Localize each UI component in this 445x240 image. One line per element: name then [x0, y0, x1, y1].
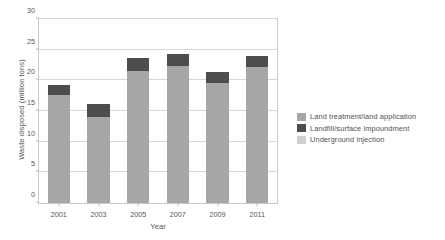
chart-figure: Waste disposed (million tons) 0510152025…: [0, 0, 445, 240]
gridline: [39, 18, 277, 19]
bar-segment: [167, 54, 189, 66]
y-axis-tick-mark: [36, 140, 39, 141]
x-axis-tick-label: 2005: [130, 210, 146, 219]
bar-segment: [246, 67, 268, 203]
gridline: [39, 141, 277, 142]
bar-segment: [246, 56, 268, 66]
x-axis-tick-mark: [217, 203, 218, 206]
x-axis-tick-label: 2011: [249, 210, 264, 219]
legend-swatch-icon: [297, 124, 306, 132]
x-axis-tick-label: 2007: [170, 210, 186, 219]
chart-legend: Land treatment/land applicationLandfill/…: [297, 112, 416, 144]
legend-item-label: Landfill/surface impoundment: [310, 124, 409, 133]
x-axis-tick-mark: [257, 203, 258, 206]
legend-item-label: Land treatment/land application: [310, 112, 416, 121]
y-axis-tick-label: 30: [27, 6, 35, 15]
bar: [127, 58, 149, 203]
bar-segment: [127, 71, 149, 203]
legend-item-label: Underground injection: [310, 135, 384, 144]
y-axis-tick-label: 15: [27, 98, 35, 107]
x-axis-tick-label: 2001: [51, 210, 67, 219]
legend-swatch-icon: [297, 113, 306, 121]
gridline: [39, 79, 277, 80]
y-axis-tick-mark: [36, 202, 39, 203]
bar: [246, 56, 268, 203]
gridline: [39, 49, 277, 50]
gridline: [39, 110, 277, 111]
y-axis-tick-mark: [36, 79, 39, 80]
bar-segment: [206, 83, 228, 203]
x-axis-tick-mark: [58, 203, 59, 206]
bar: [48, 85, 70, 203]
bar-segment: [167, 66, 189, 203]
x-axis-tick-mark: [138, 203, 139, 206]
bar-segment: [87, 117, 109, 203]
x-axis-title: Year: [38, 222, 278, 231]
x-axis-tick-mark: [177, 203, 178, 206]
bar: [87, 104, 109, 203]
bar-segment: [48, 95, 70, 203]
y-axis-tick-mark: [36, 48, 39, 49]
bar-segment: [127, 58, 149, 70]
bar: [167, 54, 189, 203]
y-axis-tick-mark: [36, 18, 39, 19]
y-axis-tick-label: 20: [27, 67, 35, 76]
plot-area: 051015202530200120032005200720092011: [38, 18, 278, 204]
x-axis-tick-mark: [98, 203, 99, 206]
gridline: [39, 171, 277, 172]
y-axis-tick-mark: [36, 110, 39, 111]
bar-segment: [48, 85, 70, 95]
bar-segment: [206, 72, 228, 83]
y-axis-tick-mark: [36, 171, 39, 172]
legend-swatch-icon: [297, 136, 306, 144]
y-axis-tick-label: 10: [27, 128, 35, 137]
legend-item[interactable]: Landfill/surface impoundment: [297, 124, 416, 133]
bar: [206, 72, 228, 203]
y-axis-tick-label: 0: [31, 190, 35, 199]
y-axis-tick-label: 5: [31, 159, 35, 168]
x-axis-tick-label: 2009: [210, 210, 226, 219]
legend-item[interactable]: Land treatment/land application: [297, 112, 416, 121]
y-axis-title: Waste disposed (million tons): [17, 30, 26, 190]
bar-segment: [87, 104, 109, 117]
x-axis-tick-label: 2003: [91, 210, 107, 219]
y-axis-tick-label: 25: [27, 36, 35, 45]
legend-item[interactable]: Underground injection: [297, 135, 416, 144]
